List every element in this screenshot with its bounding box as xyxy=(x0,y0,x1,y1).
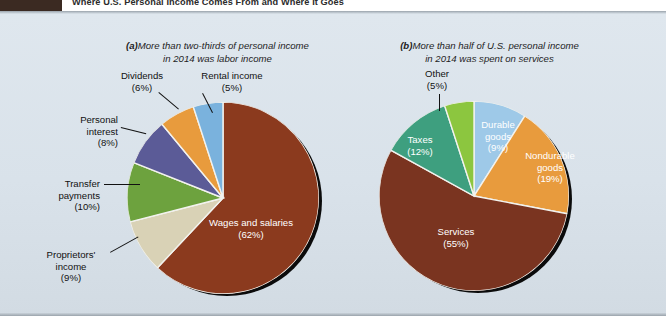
slice-label-taxes: Taxes (12%) xyxy=(396,134,444,157)
header-band: Where U.S. Personal Income Comes From an… xyxy=(0,0,666,11)
slice-label-proprietors-income: Proprietors' income (9%) xyxy=(34,249,108,284)
panel-a-caption: (a)More than two-thirds of personal inco… xyxy=(100,28,335,65)
panel-a-caption-text: More than two-thirds of personal income … xyxy=(138,40,309,63)
slice-label-durable-goods: Durable goods (9%) xyxy=(469,119,527,154)
slice-label-transfer-payments: Transfer payments (10%) xyxy=(28,178,100,213)
panel-b-caption-text: More than half of U.S. personal income i… xyxy=(412,40,578,63)
slice-label-rental-income: Rental income (5%) xyxy=(190,70,274,93)
slice-label-services: Services (55%) xyxy=(420,226,492,249)
panel-b-caption: (b)More than half of U.S. personal incom… xyxy=(372,28,607,65)
slice-label-dividends: Dividends (6%) xyxy=(108,70,176,93)
slice-label-other: Other (5%) xyxy=(408,68,466,91)
slice-label-personal-interest: Personal interest (8%) xyxy=(50,114,118,149)
leader-transfer-payments xyxy=(104,184,140,185)
pie-a-svg xyxy=(127,102,319,294)
panel-b-tag: (b) xyxy=(400,40,412,51)
leader-other xyxy=(439,94,440,111)
header-chapter-tab xyxy=(0,0,62,11)
pie-a-disc xyxy=(127,102,319,294)
page-title: Where U.S. Personal Income Comes From an… xyxy=(72,0,344,7)
panel-a-tag: (a) xyxy=(126,40,138,51)
slice-label-nondurable-goods: Nondurable goods (19%) xyxy=(507,150,593,185)
slice-label-wages-and-salaries: Wages and salaries (62%) xyxy=(196,217,306,240)
pie-chart-personal-income-sources xyxy=(127,102,327,298)
